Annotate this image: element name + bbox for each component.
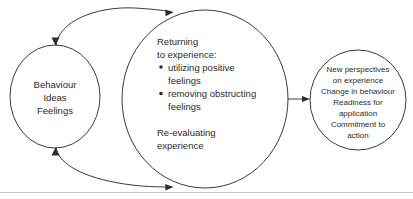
diagram-container: Behaviour Ideas Feelings Returning to ex… [0, 0, 413, 199]
center-footer-2: experience [157, 140, 203, 151]
right-line-2: on experience [333, 76, 384, 85]
bullet-dot-2 [159, 92, 163, 96]
connector-center-to-right[interactable] [288, 96, 310, 102]
right-line-6: Commitment to [331, 120, 386, 129]
center-right-arrowhead [302, 96, 310, 102]
bottom-arrowhead-left [52, 148, 60, 156]
center-heading-1: Returning [157, 36, 198, 47]
top-arrowhead-right [165, 9, 173, 16]
center-bullet-2-line-2: feelings [168, 101, 201, 112]
right-line-5: application [339, 109, 377, 118]
right-line-7: action [347, 131, 368, 140]
left-line-3: Feelings [37, 105, 73, 116]
left-line-2: Ideas [43, 92, 66, 103]
diagram-canvas: Behaviour Ideas Feelings Returning to ex… [0, 0, 413, 199]
bottom-arrowhead-right [165, 184, 173, 190]
top-arrowhead-left [52, 38, 60, 46]
right-line-3: Change in behaviour [321, 87, 395, 96]
center-heading-2: to experience: [157, 49, 217, 60]
right-line-1: New perspectives [326, 65, 389, 74]
center-bullet-1-line-1: utilizing positive [168, 62, 235, 73]
left-line-1: Behaviour [34, 79, 77, 90]
right-line-4: Readiness for [333, 98, 383, 107]
center-footer-1: Re-evaluating [157, 127, 216, 138]
node-center-ellipse[interactable] [122, 10, 288, 188]
center-bullet-2-line-1: removing obstructing [168, 88, 256, 99]
center-bullet-1-line-2: feelings [168, 75, 201, 86]
bullet-dot-1 [159, 65, 163, 69]
